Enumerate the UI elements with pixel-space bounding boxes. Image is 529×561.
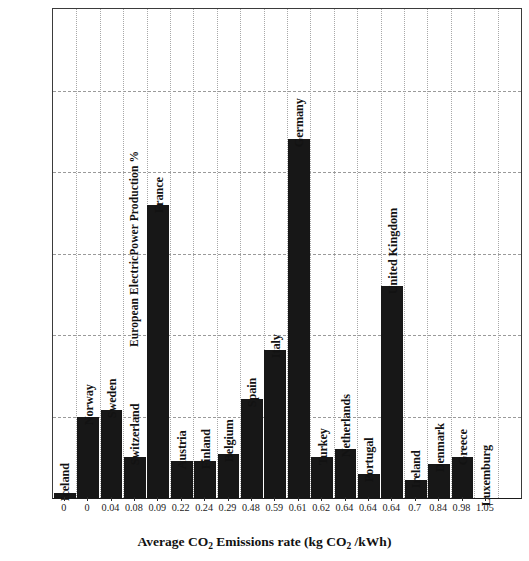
gridline-vertical bbox=[193, 9, 194, 498]
bar bbox=[147, 205, 169, 498]
x-axis-tick-mark bbox=[228, 497, 229, 501]
category-label: United Kingdom bbox=[387, 208, 399, 294]
x-axis-tick-mark bbox=[251, 497, 252, 501]
gridline-vertical bbox=[123, 9, 124, 498]
gridline-vertical bbox=[170, 9, 171, 498]
category-label: Germany bbox=[293, 99, 305, 148]
x-axis-tick-mark bbox=[415, 497, 416, 501]
category-label: Italy bbox=[270, 334, 282, 358]
x-axis-tick-mark bbox=[462, 497, 463, 501]
x-axis-tick-mark bbox=[321, 497, 322, 501]
bar bbox=[77, 417, 99, 499]
category-label: Denmark bbox=[433, 423, 445, 472]
x-axis-tick-mark bbox=[204, 497, 205, 501]
x-axis-title-part-1: Average CO bbox=[138, 534, 209, 549]
gridline-vertical bbox=[357, 9, 358, 498]
x-axis-tick-mark bbox=[134, 497, 135, 501]
x-axis-tick-mark bbox=[368, 497, 369, 501]
x-axis-tick-mark bbox=[298, 497, 299, 501]
category-label: Portugal bbox=[363, 437, 375, 482]
category-label: Austria bbox=[176, 430, 188, 469]
gridline-vertical bbox=[498, 9, 499, 498]
bar bbox=[101, 410, 123, 498]
category-label: Greece bbox=[457, 430, 469, 466]
category-label: Iceland bbox=[59, 463, 71, 501]
category-label: Spain bbox=[246, 377, 258, 407]
category-label: France bbox=[153, 177, 165, 213]
x-axis-tick-mark bbox=[485, 497, 486, 501]
gridline-vertical bbox=[451, 9, 452, 498]
x-axis-tick-mark bbox=[157, 497, 158, 501]
category-label: Turkey bbox=[316, 428, 328, 465]
bar bbox=[381, 286, 403, 498]
category-label: Finland bbox=[199, 428, 211, 468]
x-axis-tick-mark bbox=[391, 497, 392, 501]
category-label: Norway bbox=[82, 384, 94, 425]
chart-figure: European ElectricPower Production % 0510… bbox=[0, 0, 529, 561]
x-axis-tick-mark bbox=[111, 497, 112, 501]
bar bbox=[288, 139, 310, 498]
bar bbox=[264, 350, 286, 498]
plot-area: IcelandNorwaySwedenSwitzerlandFranceAust… bbox=[52, 8, 522, 499]
x-axis-tick-mark bbox=[87, 497, 88, 501]
x-axis-tick-mark bbox=[181, 497, 182, 501]
x-axis-tick-label: 1.05 bbox=[469, 502, 501, 513]
gridline-vertical bbox=[334, 9, 335, 498]
x-axis-title-part-3: /kWh) bbox=[351, 534, 391, 549]
category-label: Luxemburg bbox=[480, 445, 492, 506]
gridline-vertical bbox=[404, 9, 405, 498]
category-label: Sweden bbox=[106, 379, 118, 419]
category-label: Ireland bbox=[410, 450, 422, 488]
x-axis-tick-mark bbox=[64, 497, 65, 501]
x-axis-tick-mark bbox=[274, 497, 275, 501]
category-label: Belgium bbox=[223, 419, 235, 462]
gridline-vertical bbox=[427, 9, 428, 498]
category-label: Switzerland bbox=[129, 404, 141, 466]
x-axis-tick-mark bbox=[438, 497, 439, 501]
gridline-vertical bbox=[474, 9, 475, 498]
bar bbox=[241, 399, 263, 498]
gridline-vertical bbox=[310, 9, 311, 498]
x-axis-tick-mark bbox=[345, 497, 346, 501]
gridline-vertical bbox=[217, 9, 218, 498]
x-axis-title: Average CO2 Emissions rate (kg CO2 /kWh) bbox=[0, 534, 529, 551]
category-label: Netherlands bbox=[340, 394, 352, 457]
x-axis-title-part-2: Emissions rate (kg CO bbox=[213, 534, 347, 549]
